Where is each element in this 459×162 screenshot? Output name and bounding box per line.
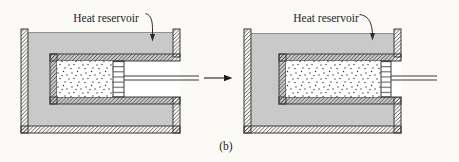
right-leader-line (360, 15, 373, 35)
left-reservoir-label: Heat reservoir (73, 12, 139, 24)
right-tub-bottom-wall (244, 126, 401, 133)
left-tub-bottom-wall (21, 126, 180, 133)
left-cylinder-left-wall (50, 54, 57, 104)
left-tub-right-wall-top (173, 29, 180, 57)
left-tub-left-wall (21, 29, 28, 133)
transition-arrow-head (224, 75, 233, 82)
right-gas-region (286, 61, 381, 97)
right-tub-right-wall-top (394, 29, 401, 57)
left-leader-line (146, 14, 153, 36)
right-tub-left-wall (244, 29, 251, 133)
right-reservoir-label: Heat reservoir (293, 12, 359, 24)
transition-arrow-icon (204, 75, 233, 82)
figure-svg: Heat reservoir (0, 0, 459, 162)
right-cylinder-left-wall (279, 54, 286, 104)
left-gas-region (57, 61, 113, 97)
thermodynamics-figure: Heat reservoir (0, 0, 459, 162)
left-cylinder-top-wall (50, 54, 180, 61)
right-cylinder-top-wall (279, 54, 401, 61)
left-piston (113, 61, 124, 97)
right-panel: Heat reservoir (244, 12, 437, 133)
right-cylinder-bottom-wall (279, 97, 401, 104)
right-piston (381, 61, 391, 97)
figure-caption: (b) (219, 140, 233, 153)
left-panel: Heat reservoir (21, 12, 199, 133)
left-cylinder-bottom-wall (50, 97, 180, 104)
